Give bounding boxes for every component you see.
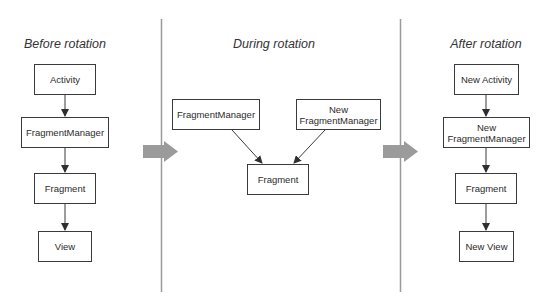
node-label: Activity <box>50 74 80 85</box>
node-label: New View <box>465 241 507 252</box>
transition-arrow-icon <box>143 141 178 162</box>
node-label: View <box>55 241 75 252</box>
node-fragment: Fragment <box>34 173 96 204</box>
node-new-fragment-manager: New FragmentManager <box>296 99 381 130</box>
node-activity: Activity <box>34 64 96 95</box>
node-new-view: New View <box>459 231 514 262</box>
fragment-rotation-diagram: Before rotation During rotation After ro… <box>0 0 547 298</box>
node-label: Fragment <box>258 174 299 185</box>
node-fragment-manager: FragmentManager <box>172 99 260 130</box>
node-fragment: Fragment <box>455 173 517 204</box>
node-view: View <box>38 231 92 262</box>
node-fragment: Fragment <box>247 164 309 195</box>
node-fragment-manager: FragmentManager <box>21 117 109 148</box>
node-label: New FragmentManager <box>299 104 377 126</box>
edge-fragmentmanager-fragment <box>232 130 262 163</box>
node-label: New FragmentManager <box>447 122 525 144</box>
node-new-fragment-manager: New FragmentManager <box>443 117 530 148</box>
node-label: FragmentManager <box>177 109 255 120</box>
node-label: Fragment <box>45 183 86 194</box>
node-label: Fragment <box>466 183 507 194</box>
edge-newfragmentmanager-fragment <box>294 130 325 163</box>
heading-before-rotation: Before rotation <box>24 37 106 51</box>
node-label: FragmentManager <box>26 127 104 138</box>
heading-during-rotation: During rotation <box>233 37 315 51</box>
node-label: New Activity <box>461 74 512 85</box>
node-new-activity: New Activity <box>454 64 519 95</box>
heading-after-rotation: After rotation <box>450 37 522 51</box>
